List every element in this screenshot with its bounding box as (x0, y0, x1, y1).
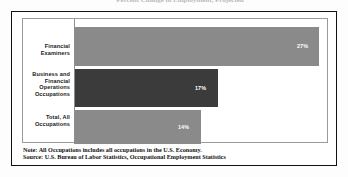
bar-label-total-all-occupations: Total, All Occupations (23, 114, 70, 127)
figure-notes: Note: All Occupations includes all occup… (23, 146, 323, 161)
bar-financial-examiners (75, 27, 319, 66)
bar-label-financial-examiners: Financial Examiners (23, 43, 70, 56)
note-line-source: Source: U.S. Bureau of Labor Statistics,… (23, 153, 323, 160)
bar-value-business-financial-operations: 17% (195, 85, 206, 91)
clipped-title: Percent Change in Employment, Projected (60, 0, 300, 3)
note-line-definition: Note: All Occupations includes all occup… (23, 146, 323, 153)
bar-value-financial-examiners: 27% (297, 43, 308, 49)
bar-value-total-all-occupations: 14% (178, 124, 189, 130)
bar-label-business-financial-operations: Business and Financial Operations Occupa… (23, 71, 70, 97)
chart-figure: Percent Change in Employment, Projected … (0, 0, 348, 177)
plot-area: Financial Examiners 27% Business and Fin… (22, 18, 328, 143)
